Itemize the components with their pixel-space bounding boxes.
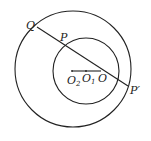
geometry-diagram: Q P P′ O2 O1 O bbox=[0, 0, 151, 141]
label-O1-sub: 1 bbox=[91, 78, 95, 86]
label-O2-sub: 2 bbox=[75, 80, 81, 88]
label-P-prime: P′ bbox=[129, 84, 140, 97]
label-O: O bbox=[98, 72, 107, 85]
label-O2-main: O bbox=[67, 74, 76, 87]
label-Q: Q bbox=[26, 19, 35, 32]
label-O1: O1 bbox=[82, 72, 96, 86]
label-O2: O2 bbox=[67, 74, 81, 88]
point-O2 bbox=[71, 70, 73, 72]
label-O1-main: O bbox=[82, 72, 91, 85]
label-P: P bbox=[59, 31, 68, 44]
